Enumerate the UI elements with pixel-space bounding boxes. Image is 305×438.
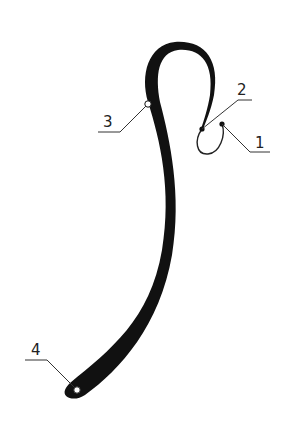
hook-diagram: 1 2 3 4 (0, 0, 305, 438)
label-2: 2 (237, 81, 247, 99)
label-1: 1 (255, 134, 265, 152)
leader-line-4 (25, 360, 75, 388)
label-4: 4 (31, 341, 41, 359)
label-3: 3 (103, 113, 113, 131)
hook-body (65, 42, 216, 399)
